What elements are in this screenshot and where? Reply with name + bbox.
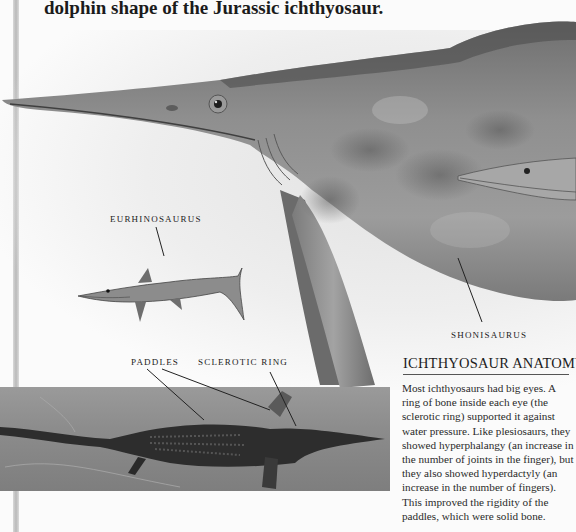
label-sclerotic-ring: SCLEROTIC RING	[198, 357, 288, 367]
sidebar-title: ICHTHYOSAUR ANATOMY	[403, 355, 569, 375]
fossil-photo	[0, 387, 390, 491]
book-page: dolphin shape of the Jurassic ichthyosau…	[0, 0, 576, 532]
shonisaurus-illustration	[0, 0, 576, 400]
label-shonisaurus: SHONISAURUS	[451, 330, 527, 340]
anatomy-sidebar: ICHTHYOSAUR ANATOMY Most ichthyosaurs ha…	[400, 355, 576, 532]
eurhinosaurus-illustration	[78, 268, 244, 322]
label-paddles: PADDLES	[131, 357, 179, 367]
sidebar-body: Most ichthyosaurs had big eyes. A ring o…	[402, 381, 574, 523]
label-eurhinosaurus: EURHINOSAURUS	[110, 214, 202, 224]
